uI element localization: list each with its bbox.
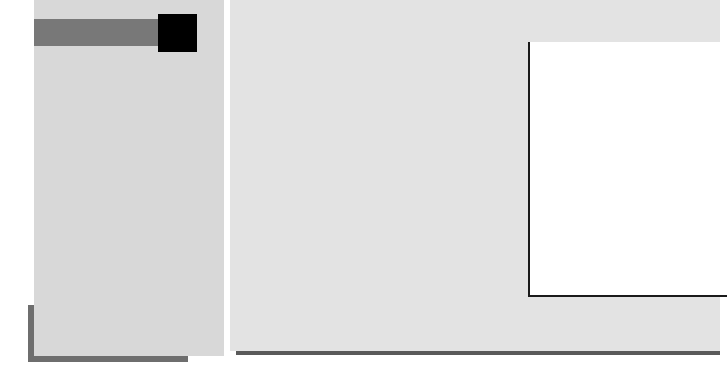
exhibit-page: [0, 0, 727, 391]
supply-curve-plot: [530, 42, 727, 297]
exhibit-number: [158, 14, 197, 52]
exhibit-header-label: [34, 19, 170, 46]
chart-region: [230, 0, 720, 351]
plot-area: [528, 42, 727, 297]
caption-block: [34, 76, 224, 356]
